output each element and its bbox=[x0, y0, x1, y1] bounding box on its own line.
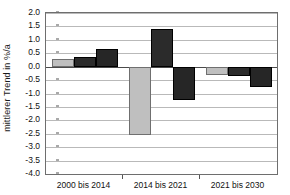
y-tick-label: -3.0 bbox=[25, 141, 40, 151]
y-tick-label: -2.0 bbox=[25, 114, 40, 124]
gridline bbox=[46, 134, 277, 135]
bar bbox=[250, 67, 272, 87]
x-tick-label: 2000 bis 2014 bbox=[57, 180, 110, 190]
bar bbox=[206, 67, 228, 75]
x-tick-mark bbox=[122, 175, 123, 179]
bar bbox=[96, 49, 118, 66]
y-tick-label: -1.5 bbox=[25, 101, 40, 111]
y-tick-label: -3.5 bbox=[25, 155, 40, 165]
plot-area bbox=[45, 12, 278, 175]
y-tick-label: 2.0 bbox=[28, 7, 40, 17]
bar bbox=[74, 57, 96, 66]
bar bbox=[151, 29, 173, 67]
gridline bbox=[46, 94, 277, 95]
y-tick-label: -0.5 bbox=[25, 74, 40, 84]
y-tick-label: -2.5 bbox=[25, 128, 40, 138]
y-axis-title-text: mittlerer Trend in %/a bbox=[2, 44, 12, 132]
y-tick-label: 0.5 bbox=[28, 47, 40, 57]
bar bbox=[173, 67, 195, 101]
y-tick-label: 1.5 bbox=[28, 20, 40, 30]
bar bbox=[129, 67, 151, 135]
x-tick-label: 2014 bis 2021 bbox=[134, 180, 187, 190]
x-axis-tick-labels: 2000 bis 20142014 bis 20212021 bis 2030 bbox=[45, 180, 278, 194]
y-tick-label: 1.0 bbox=[28, 34, 40, 44]
y-axis-tick-labels: 2.01.51.00.50.0-0.5-1.0-1.5-2.0-2.5-3.0-… bbox=[14, 12, 42, 175]
gridline bbox=[46, 26, 277, 27]
gridline bbox=[46, 147, 277, 148]
bar bbox=[228, 67, 250, 76]
y-tick-label: -1.0 bbox=[25, 88, 40, 98]
gridline bbox=[46, 161, 277, 162]
gridline bbox=[46, 120, 277, 121]
gridline bbox=[46, 13, 277, 14]
bar-chart: mittlerer Trend in %/a 2.01.51.00.50.0-0… bbox=[0, 0, 290, 195]
x-tick-mark bbox=[199, 175, 200, 179]
y-tick-label: 0.0 bbox=[28, 61, 40, 71]
y-axis-title: mittlerer Trend in %/a bbox=[0, 0, 14, 175]
y-tick-label: -4.0 bbox=[25, 168, 40, 178]
x-tick-label: 2021 bis 2030 bbox=[211, 180, 264, 190]
gridline bbox=[46, 80, 277, 81]
gridline bbox=[46, 107, 277, 108]
bar bbox=[52, 59, 74, 67]
